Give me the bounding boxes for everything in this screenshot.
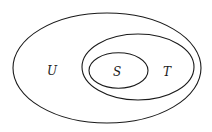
set-t-label: T [163,65,172,79]
set-s-label: S [113,65,121,79]
set-u-label: U [47,64,58,78]
set-u-ellipse [13,13,201,123]
venn-diagram: U S T [0,0,212,132]
set-t-ellipse [82,34,194,100]
